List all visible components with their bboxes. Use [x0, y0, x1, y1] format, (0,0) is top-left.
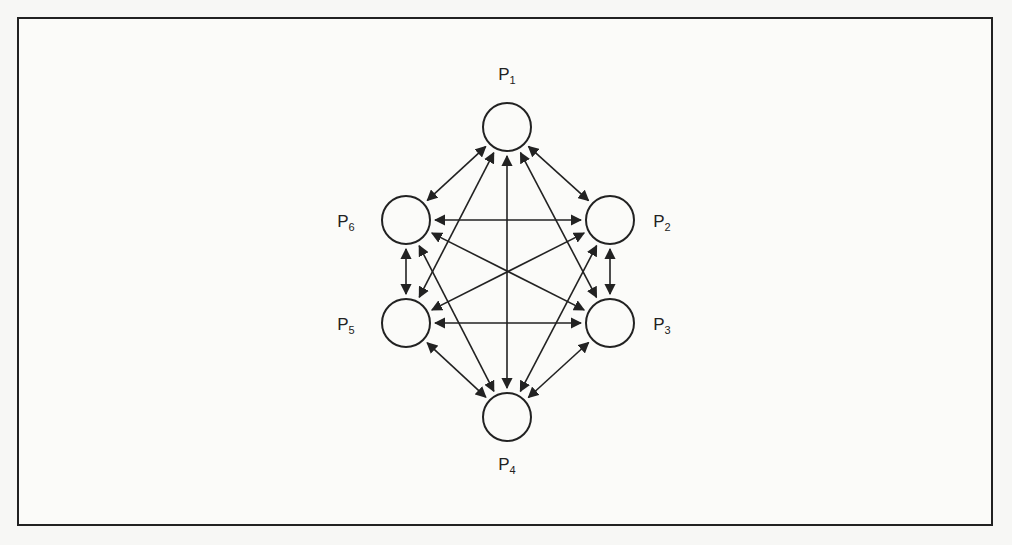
node-label-p2: P2	[653, 212, 670, 233]
node-p2	[586, 196, 634, 244]
node-p6	[382, 196, 430, 244]
edge-p1-p6	[427, 147, 485, 201]
node-label-p5: P5	[337, 315, 354, 336]
node-p1	[483, 103, 531, 151]
node-p3	[586, 299, 634, 347]
node-label-p6: P6	[337, 212, 354, 233]
node-p5	[382, 299, 430, 347]
node-label-p3: P3	[653, 315, 670, 336]
network-diagram: P1P2P3P4P5P6	[0, 0, 1012, 545]
edge-p1-p2	[529, 146, 589, 200]
edge-p3-p4	[528, 343, 588, 398]
node-label-p1: P1	[498, 65, 515, 86]
node-p4	[483, 393, 531, 441]
edge-p4-p5	[427, 343, 486, 397]
node-label-p4: P4	[498, 455, 515, 476]
edges-layer	[406, 146, 610, 397]
